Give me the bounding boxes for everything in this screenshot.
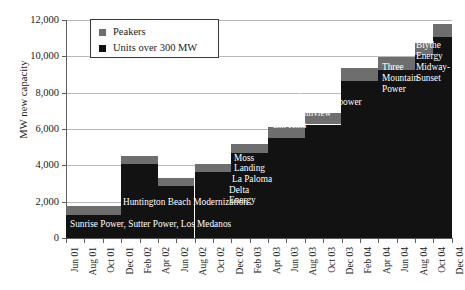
xtick-label-aug-01: Aug 01 (88, 247, 98, 276)
legend: Peakers Units over 300 MW (90, 19, 219, 58)
xtick-label-jun-01: Jun 01 (70, 247, 80, 272)
step-dark-9 (378, 70, 415, 238)
xtick-mark-15 (342, 238, 343, 243)
ytick-mark-4000 (62, 165, 67, 166)
xtick-mark-4 (140, 238, 141, 243)
annotation-moss-landing-line1: Moss (234, 153, 254, 164)
step-dark-7 (305, 125, 342, 239)
step-gray-8 (341, 68, 378, 81)
annotation-delta-energy-line1: Delta (229, 185, 249, 196)
annotation-blythe-midway-line4: Sunset (416, 73, 441, 84)
xtick-mark-14 (323, 238, 324, 243)
annotation-blythe-midway-line2: Energy (416, 51, 443, 62)
xtick-label-jun-04: Jun 04 (400, 247, 410, 272)
xtick-label-dec-02: Dec 02 (235, 247, 245, 274)
annotation-otay-mesa: Otay Mesa (285, 85, 326, 96)
step-gray-1 (66, 206, 121, 215)
annotation-contra-costa-repower: Contra Costa Repower (277, 97, 362, 108)
xtick-mark-17 (378, 238, 379, 243)
ytick-mark-12000 (62, 20, 67, 21)
ytick-label-10000: 10,000 (30, 51, 59, 62)
xtick-mark-2 (103, 238, 104, 243)
xtick-mark-13 (305, 238, 306, 243)
xtick-mark-8 (213, 238, 214, 243)
xtick-mark-9 (231, 238, 232, 243)
step-dark-3 (158, 186, 195, 238)
xtick-label-aug-03: Aug 03 (308, 247, 318, 276)
annotation-three-mountain-power-line1: Three (382, 62, 404, 73)
annotation-blythe-midway-line3: Midway- (416, 62, 450, 73)
xtick-label-oct-02: Oct 02 (216, 247, 226, 273)
xtick-mark-19 (415, 238, 416, 243)
xtick-mark-21 (452, 238, 453, 243)
xtick-label-dec-03: Dec 03 (345, 247, 355, 274)
legend-label-units-over-300-mw: Units over 300 MW (113, 43, 197, 54)
step-gray-4 (195, 164, 232, 172)
xtick-mark-20 (433, 238, 434, 243)
xtick-mark-16 (360, 238, 361, 243)
annotation-blythe-midway-line1: Blythe (416, 40, 441, 51)
annotation-pastoria: Pastoria (214, 136, 244, 147)
xtick-label-oct-03: Oct 03 (327, 247, 337, 273)
xtick-mark-11 (268, 238, 269, 243)
xtick-mark-10 (250, 238, 251, 243)
ytick-mark-10000 (62, 56, 67, 57)
step-gray-2 (121, 156, 158, 164)
xtick-label-apr-04: Apr 04 (382, 247, 392, 274)
legend-item-peakers: Peakers (99, 24, 218, 40)
xtick-label-feb-03: Feb 03 (253, 247, 263, 273)
legend-swatch-units-over-300-mw (99, 45, 106, 52)
step-dark-6 (268, 138, 305, 238)
ytick-label-8000: 8,000 (35, 87, 59, 98)
step-gray-11 (433, 24, 452, 38)
xtick-label-apr-03: Apr 03 (272, 247, 282, 274)
xtick-mark-5 (158, 238, 159, 243)
xtick-label-jun-02: Jun 02 (180, 247, 190, 272)
xtick-label-jun-03: Jun 03 (290, 247, 300, 272)
xtick-mark-7 (195, 238, 196, 243)
annotation-mountainview: Mountainview (277, 108, 331, 119)
xtick-label-dec-01: Dec 01 (125, 247, 135, 274)
xtick-label-feb-02: Feb 02 (143, 247, 153, 273)
ytick-label-6000: 6,000 (35, 124, 59, 135)
xtick-mark-12 (286, 238, 287, 243)
ytick-label-4000: 4,000 (35, 160, 59, 171)
xtick-label-oct-04: Oct 04 (437, 247, 447, 273)
xtick-mark-0 (66, 238, 67, 243)
annotation-sunrise-sutter-losmedanos: Sunrise Power, Sutter Power, Los Medanos (70, 219, 231, 230)
xtick-label-dec-04: Dec 04 (455, 247, 465, 274)
annotation-three-mountain-power-line3: Power (382, 84, 406, 95)
annotation-three-mountain-power-line2: Mountain (382, 73, 418, 84)
annotation-moss-landing-line2: Landing (234, 163, 265, 174)
xtick-label-apr-02: Apr 02 (161, 247, 171, 274)
xtick-label-feb-04: Feb 04 (363, 247, 373, 273)
ytick-mark-8000 (62, 93, 67, 94)
ytick-label-12000: 12,000 (30, 15, 59, 26)
step-gray-3 (158, 178, 195, 186)
annotation-elk-hills: Elk Hills (273, 120, 306, 131)
annotation-la-paloma: La Paloma (232, 174, 272, 185)
ytick-mark-2000 (62, 202, 67, 203)
xtick-label-aug-02: Aug 02 (198, 247, 208, 276)
y-axis-title: MW new capacity (18, 30, 29, 170)
legend-item-units-over-300-mw: Units over 300 MW (99, 40, 218, 56)
xtick-mark-6 (176, 238, 177, 243)
xtick-label-aug-04: Aug 04 (419, 247, 429, 276)
ytick-label-2000: 2,000 (35, 196, 59, 207)
xtick-mark-1 (84, 238, 85, 243)
ytick-mark-6000 (62, 129, 67, 130)
annotation-high-desert: High Desert (285, 74, 330, 85)
annotation-delta-energy-line2: Energy (229, 195, 256, 206)
xtick-mark-18 (397, 238, 398, 243)
x-axis-line (66, 238, 453, 239)
legend-label-peakers: Peakers (113, 27, 146, 38)
legend-swatch-peakers (99, 29, 106, 36)
xtick-label-oct-01: Oct 01 (106, 247, 116, 273)
ytick-label-0: 0 (54, 233, 59, 244)
xtick-mark-3 (121, 238, 122, 243)
